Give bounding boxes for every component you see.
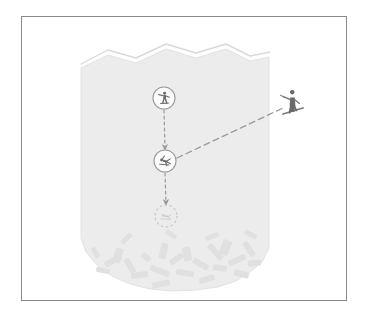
rider-marker-top[interactable] — [153, 87, 175, 109]
snow-slab — [81, 49, 269, 291]
rider-marker-middle[interactable] — [154, 150, 176, 172]
skier-silhouette — [281, 90, 304, 114]
avalanche-scene — [0, 0, 369, 318]
diagram-canvas — [0, 0, 369, 318]
